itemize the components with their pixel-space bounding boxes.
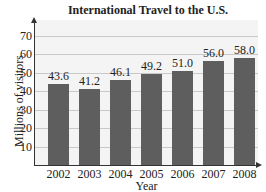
bar-2006 (172, 71, 193, 165)
bar-2005 (141, 74, 162, 165)
y-tick-label: 60 (12, 48, 32, 60)
bar-2004 (110, 80, 131, 165)
y-tick-label: 30 (12, 104, 32, 116)
bar-value-label: 58.0 (227, 44, 263, 56)
y-tick-label: 10 (12, 141, 32, 153)
x-tick-label: 2008 (227, 168, 263, 180)
y-tick-label: 20 (12, 122, 32, 134)
y-tick-label: 40 (12, 85, 32, 97)
bar-2002 (48, 84, 69, 165)
bar-2008 (234, 58, 255, 165)
bar-2007 (203, 61, 224, 165)
x-axis-line (34, 165, 258, 166)
y-axis-line (34, 20, 35, 166)
y-tick-label: 50 (12, 67, 32, 79)
gridline (35, 36, 258, 37)
y-tick-label: 70 (12, 30, 32, 42)
y-axis-arrow-icon (31, 17, 37, 23)
bar-2003 (79, 89, 100, 165)
chart-title: International Travel to the U.S. (0, 3, 266, 18)
x-axis-label: Year (35, 180, 258, 192)
